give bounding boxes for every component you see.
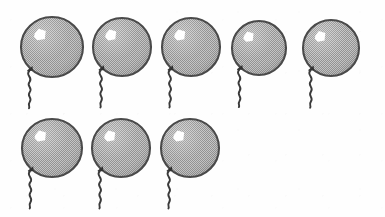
balloon-icon — [226, 15, 292, 127]
balloon-icon — [86, 113, 156, 217]
balloon-string — [168, 71, 171, 108]
balloon-string — [167, 172, 170, 209]
balloon-string — [98, 172, 101, 209]
balloon-icon — [297, 14, 365, 128]
balloon-icon — [87, 12, 157, 128]
balloon-illustration — [0, 0, 385, 217]
balloon-string — [309, 71, 312, 108]
balloon-string — [28, 71, 31, 108]
balloon-string — [29, 172, 32, 209]
balloon-icon — [15, 11, 89, 129]
balloon-string — [238, 70, 241, 107]
balloon-string — [99, 71, 102, 108]
balloon-icon — [155, 113, 225, 217]
balloon-icon — [156, 12, 226, 128]
balloon-icon — [16, 113, 88, 217]
